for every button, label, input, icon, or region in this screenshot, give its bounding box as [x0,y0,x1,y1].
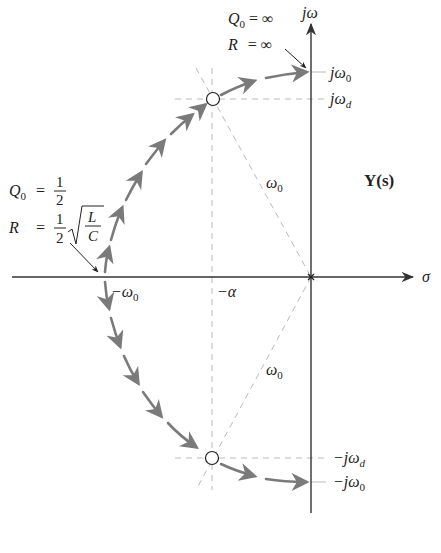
left-annotation-arrow [70,243,98,272]
j-omegad-label: jωd [328,90,352,110]
top-q-line: Q0= ∞ [228,10,274,30]
left-r-eq: = [36,219,45,236]
left-r-sqrt-den: C [88,228,99,244]
left-r-lhs: R [8,219,19,236]
sqrt-symbol-icon [68,206,104,244]
j-omega0-label: jω0 [328,64,352,84]
figure-title: Y(s) [364,171,394,190]
neg-alpha-label: −α [217,283,237,300]
top-r-line: R= ∞ [227,36,272,53]
locus-upper [105,72,306,272]
radius-upper-label: ω0 [266,174,283,194]
top-annotation: Q0= ∞ R= ∞ [227,10,274,53]
lower-pole-marker [206,452,219,465]
root-locus-diagram: jω σ Y(s) jω0 jωd −jωd −jω0 −ω0 −α ω0 ω0… [0,0,441,553]
jw-axis-label: jω [300,4,318,22]
left-q-lhs: Q0 [9,182,27,202]
left-r-den: 2 [56,230,64,246]
left-q-eq: = [36,182,45,199]
radius-lower-label: ω0 [266,361,283,381]
neg-j-omega0-label: −jω0 [333,473,366,493]
neg-j-omegad-label: −jωd [333,449,366,469]
top-annotation-arrow [285,49,306,68]
sigma-axis-label: σ [422,268,431,285]
upper-pole-marker [207,93,220,106]
left-q-num: 1 [56,174,64,190]
left-q-den: 2 [56,192,64,208]
neg-omega0-label: −ω0 [111,283,139,303]
left-annotation: Q0 = 1 2 R = 1 2 L C [8,174,104,246]
left-r-sqrt-num: L [87,209,96,225]
locus-lower [105,282,306,482]
guide-lines [175,68,325,490]
left-r-num: 1 [56,211,64,227]
